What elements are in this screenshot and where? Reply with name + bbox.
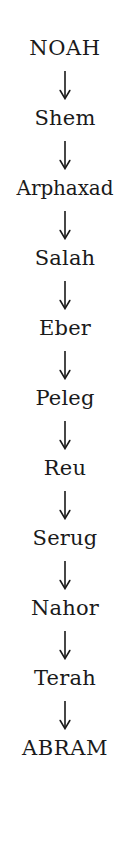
down-arrow-icon bbox=[0, 132, 130, 178]
genealogy-diagram: NOAHShemArphaxadSalahEberPelegReuSerugNa… bbox=[0, 0, 130, 846]
genealogy-node: Eber bbox=[0, 318, 130, 342]
down-arrow-icon bbox=[0, 692, 130, 738]
down-arrow-icon bbox=[0, 552, 130, 598]
down-arrow-icon bbox=[0, 482, 130, 528]
down-arrow-icon bbox=[0, 342, 130, 388]
down-arrow-icon bbox=[0, 62, 130, 108]
genealogy-node: Reu bbox=[0, 458, 130, 482]
down-arrow-icon bbox=[0, 202, 130, 248]
genealogy-node: ABRAM bbox=[0, 738, 130, 762]
genealogy-node: Shem bbox=[0, 108, 130, 132]
genealogy-node: Salah bbox=[0, 248, 130, 272]
genealogy-node: Terah bbox=[0, 668, 130, 692]
down-arrow-icon bbox=[0, 272, 130, 318]
down-arrow-icon bbox=[0, 622, 130, 668]
genealogy-chain: NOAHShemArphaxadSalahEberPelegReuSerugNa… bbox=[0, 38, 130, 762]
genealogy-node: Arphaxad bbox=[0, 178, 130, 202]
genealogy-node: Nahor bbox=[0, 598, 130, 622]
down-arrow-icon bbox=[0, 412, 130, 458]
genealogy-node: Serug bbox=[0, 528, 130, 552]
genealogy-node: Peleg bbox=[0, 388, 130, 412]
genealogy-node: NOAH bbox=[0, 38, 130, 62]
